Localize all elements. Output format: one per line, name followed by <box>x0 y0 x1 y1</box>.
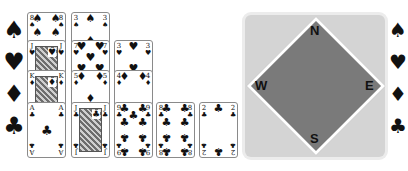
pip-icon: ♣ <box>119 132 130 143</box>
card-pips: ♣♣♣♣♣♣♣♣♣ <box>122 106 145 154</box>
card-2-of-clubs[interactable]: 2♣2♣2♣2♣♣♣ <box>199 102 238 158</box>
diamond-icon: ♦ <box>388 82 408 106</box>
face-card-portrait: ♣ <box>79 108 102 152</box>
card-index: A♣ <box>58 105 64 119</box>
card-pips: ♣ <box>35 106 58 154</box>
heart-icon: ♥ <box>388 50 408 74</box>
pip-icon: ♣ <box>179 103 190 114</box>
club-icon: ♣ <box>2 114 26 138</box>
card-a-of-clubs[interactable]: A♣A♣A♣A♣♣ <box>27 102 66 158</box>
pip-icon: ♠ <box>32 27 43 38</box>
card-index: 3♠ <box>102 15 108 29</box>
card-index: J♣ <box>102 141 108 155</box>
pip-icon: ♦ <box>137 71 148 82</box>
pip-icon: ♣ <box>161 117 172 128</box>
pip-icon: ♣ <box>128 110 139 121</box>
pip-icon: ♣ <box>179 132 190 143</box>
pip-icon: ♣ <box>137 146 148 157</box>
club-icon: ♣ <box>388 114 408 138</box>
pip-icon: ♣ <box>213 103 224 114</box>
card-index: A♣ <box>58 141 64 155</box>
pip-icon: ♦ <box>119 71 130 82</box>
suit-icon: ♦ <box>48 78 56 87</box>
card-index: J♥ <box>58 43 64 57</box>
pip-icon: ♣ <box>179 146 190 157</box>
card-index: 2♣ <box>230 141 236 155</box>
pip-icon: ♠ <box>32 13 43 24</box>
pip-icon: ♣ <box>161 132 172 143</box>
card-j-of-clubs[interactable]: J♣J♣J♣J♣♣ <box>71 102 110 158</box>
heart-icon: ♥ <box>2 50 26 74</box>
seat-west[interactable]: W <box>255 78 267 93</box>
pip-icon: ♣ <box>213 146 224 157</box>
pip-icon: ♥ <box>94 41 105 52</box>
seat-north[interactable]: N <box>310 23 319 38</box>
card-8-of-clubs[interactable]: 8♣8♣8♣8♣♣♣♣♣♣♣♣♣ <box>156 102 195 158</box>
pip-icon: ♣ <box>161 103 172 114</box>
pip-icon: ♣ <box>41 125 52 136</box>
suit-icon: ♥ <box>48 48 56 57</box>
pip-icon: ♠ <box>85 13 96 24</box>
pip-icon: ♦ <box>76 71 87 82</box>
diamond-icon: ♦ <box>2 82 26 106</box>
pip-icon: ♣ <box>161 146 172 157</box>
pip-icon: ♦ <box>94 71 105 82</box>
pip-icon: ♣ <box>119 146 130 157</box>
spade-icon: ♠ <box>388 18 408 42</box>
pip-icon: ♣ <box>179 117 190 128</box>
card-index: 2♣ <box>230 105 236 119</box>
card-9-of-clubs[interactable]: 9♣9♣9♣9♣♣♣♣♣♣♣♣♣♣ <box>114 102 153 158</box>
card-index: 3♥ <box>145 43 151 57</box>
pip-icon: ♠ <box>50 27 61 38</box>
table-compass: N W E S <box>247 17 385 156</box>
suit-icon: ♣ <box>92 110 100 119</box>
seat-east[interactable]: E <box>365 78 374 93</box>
card-pips: ♣♣♣♣♣♣♣♣ <box>164 106 187 154</box>
pip-icon: ♥ <box>128 41 139 52</box>
seat-south[interactable]: S <box>310 131 319 146</box>
card-index: K♦ <box>58 73 64 87</box>
pip-icon: ♣ <box>137 132 148 143</box>
pip-icon: ♠ <box>50 13 61 24</box>
spade-icon: ♠ <box>2 18 26 42</box>
card-index: J♣ <box>102 105 108 119</box>
card-pips: ♣♣ <box>207 106 230 154</box>
